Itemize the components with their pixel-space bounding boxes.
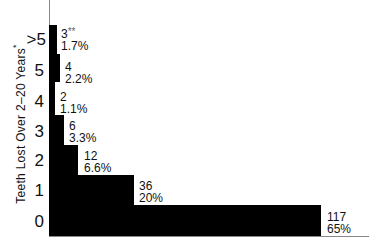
bar-1 bbox=[49, 175, 134, 205]
bar-5 bbox=[49, 54, 60, 82]
bar-2 bbox=[49, 145, 78, 175]
bar-value-label: 42.2% bbox=[65, 61, 92, 85]
category-label: 4 bbox=[22, 92, 44, 112]
bar-gt5 bbox=[49, 25, 57, 54]
category-label: 2 bbox=[22, 151, 44, 171]
bar-value-label: 3**1.7% bbox=[61, 28, 88, 52]
category-label: >5 bbox=[18, 30, 46, 50]
category-label: 5 bbox=[22, 61, 44, 81]
bar-value-label: 3620% bbox=[139, 180, 163, 204]
bar-value-label: 11765% bbox=[327, 211, 351, 235]
category-label: 3 bbox=[22, 122, 44, 142]
bar-3 bbox=[49, 115, 64, 145]
bar-4 bbox=[49, 82, 55, 115]
bar-value-label: 63.3% bbox=[69, 120, 96, 144]
bar-value-label: 21.1% bbox=[60, 91, 87, 115]
bar-0 bbox=[49, 205, 321, 236]
bar-value-label: 126.6% bbox=[84, 150, 111, 174]
category-label: 1 bbox=[22, 181, 44, 201]
category-label: 0 bbox=[22, 212, 44, 232]
x-axis-line bbox=[49, 236, 369, 237]
